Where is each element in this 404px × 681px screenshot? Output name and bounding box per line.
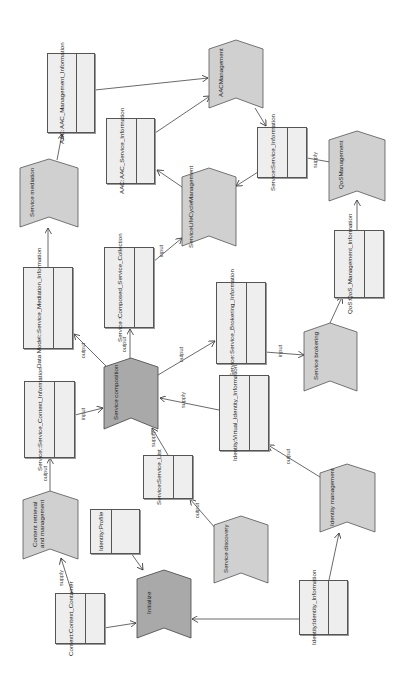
object-context-container[interactable]: Context:Context_Container — [55, 593, 105, 644]
compartment-divider — [85, 594, 86, 643]
compartment-divider — [328, 581, 329, 634]
compartment-divider — [364, 231, 365, 297]
diagram-canvas: input output output output input supply … — [0, 0, 404, 681]
compartment-divider — [134, 248, 135, 327]
process-identity-management[interactable]: Identity management — [320, 464, 375, 532]
process-service-mediation[interactable]: Service mediation — [20, 159, 78, 227]
object-label: Identity:Virtual_Identity_Information — [220, 376, 249, 450]
object-label: Identity:Profile — [91, 510, 111, 553]
object-qos-management-information[interactable]: QoS:QoS_Management_Information — [334, 230, 384, 298]
object-virtual-identity-information[interactable]: Identity:Virtual_Identity_Information — [219, 375, 269, 451]
compartment-divider — [76, 54, 77, 132]
object-aac-service-information[interactable]: AAC:AAC_Service_Information — [106, 118, 155, 184]
edge-label-output: output — [194, 503, 200, 518]
compartment-divider — [287, 128, 288, 177]
edge-label-input: input — [80, 408, 86, 420]
edge-label-output: output — [285, 449, 291, 464]
object-service-brokering-information[interactable]: Service:Service_Brokering_Information — [216, 282, 266, 364]
compartment-divider — [246, 283, 247, 363]
process-initialize[interactable]: Initialize — [137, 570, 191, 638]
process-label: Initialize — [139, 578, 159, 628]
object-label: QoS:QoS_Management_Information — [335, 231, 364, 297]
compartment-divider — [173, 456, 174, 498]
compartment-divider — [54, 382, 55, 457]
object-label: Context:Context_Container — [56, 594, 85, 643]
process-label: Content retrieval and management — [27, 499, 49, 549]
compartment-divider — [249, 376, 250, 450]
object-label: Service:Service_List — [144, 456, 173, 498]
object-data-model[interactable]: Data Model::Service_Mediation_Informatio… — [23, 267, 73, 349]
object-service-context-information[interactable]: Service::Service_Context_Information — [24, 381, 75, 458]
object-aac-management-information[interactable]: AAC:AAC_Management_Information — [47, 53, 95, 133]
process-service-composition[interactable]: Service composition — [104, 358, 158, 429]
process-aac-management[interactable]: AACManagement — [209, 40, 263, 108]
process-service-lifecycle-management[interactable]: ServiceLifeCycleManagement — [182, 168, 236, 246]
process-label: Identity management — [322, 472, 342, 522]
object-label: Service:Service_Information — [258, 128, 287, 177]
object-label: AAC:AAC_Service_Information — [107, 119, 136, 183]
edge-label-input: input — [158, 245, 164, 257]
edge-label-input: input — [277, 345, 283, 357]
object-label: Service:Service_Brokering_Information — [217, 283, 246, 363]
process-label: Service mediation — [22, 167, 42, 217]
process-service-brokering[interactable]: Service brokering — [304, 323, 357, 391]
process-qos-management[interactable]: QoSManagement — [329, 131, 385, 201]
process-label: ServiceLifeCycleManagement — [183, 174, 199, 240]
object-label: Service::Service_Context_Information — [25, 382, 54, 457]
object-service-information[interactable]: Service:Service_Information — [257, 127, 307, 178]
process-label: Service brokering — [306, 331, 326, 381]
object-label: Identity:Identity_Information — [300, 581, 328, 634]
edge-label-supply: supply — [312, 152, 318, 168]
object-identity-information[interactable]: Identity:Identity_Information — [299, 580, 348, 635]
process-content-retrieval[interactable]: Content retrieval and management — [23, 491, 78, 559]
edge-label-output: output — [80, 343, 86, 358]
edge-label-output: output — [178, 347, 184, 362]
object-composed-service-collection[interactable]: Service :Composed_Service_Collection — [104, 247, 154, 328]
object-label: AAC:AAC_Management_Information — [48, 54, 76, 132]
edge-label-supply: supply — [58, 570, 64, 586]
object-label: Service :Composed_Service_Collection — [105, 248, 134, 327]
compartment-divider — [111, 510, 112, 553]
process-label: Service discovery — [216, 524, 236, 573]
process-label: AACManagement — [211, 48, 231, 98]
object-service-list[interactable]: Service:Service_List — [143, 455, 193, 499]
object-identity-profile[interactable]: Identity:Profile — [90, 509, 140, 554]
edge-label-supply: supply — [150, 431, 156, 447]
edge-label-supply: supply — [180, 392, 186, 408]
process-service-discovery[interactable]: Service discovery — [214, 516, 268, 583]
object-label: Data Model::Service_Mediation_Informatio… — [24, 268, 53, 348]
compartment-divider — [53, 268, 54, 348]
process-label: Service composition — [106, 366, 126, 419]
process-label: QoSManagement — [331, 139, 351, 191]
compartment-divider — [136, 119, 137, 183]
